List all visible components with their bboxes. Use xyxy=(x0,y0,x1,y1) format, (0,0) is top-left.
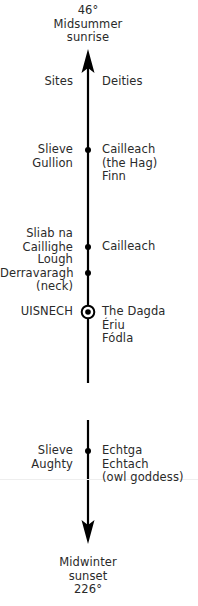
bottom-degree: 226° xyxy=(38,583,138,597)
top-event-2: sunrise xyxy=(38,31,138,45)
marker-dot-lough-derravaragh xyxy=(85,270,91,276)
marker-dot-sliab-na-caillighe xyxy=(85,244,91,250)
header-sites: Sites xyxy=(10,75,73,89)
bottom-event: Midwinter xyxy=(38,556,138,570)
site-slieve-aughty: Slieve Aughty xyxy=(0,444,73,471)
deities-slieve-aughty: Echtga Echtach (owl goddess) xyxy=(102,444,184,485)
site-lough-derravaragh: Lough Derravaragh (neck) xyxy=(0,253,73,294)
top-degree: 46° xyxy=(38,4,138,18)
deities-sliab-na-caillighe: Cailleach xyxy=(102,240,155,254)
bottom-label: Midwinter sunset 226° xyxy=(38,556,138,597)
top-event: Midsummer xyxy=(38,18,138,32)
site-slieve-gullion: Slieve Gullion xyxy=(0,143,73,170)
deities-slieve-gullion: Cailleach (the Hag) Finn xyxy=(102,143,157,184)
marker-dot-slieve-aughty xyxy=(85,448,91,454)
top-label: 46° Midsummer sunrise xyxy=(38,4,138,45)
deities-uisnech: The Dagda Ériu Fódla xyxy=(102,305,166,346)
alignment-axis xyxy=(0,0,198,606)
marker-dot-slieve-gullion xyxy=(85,147,91,153)
bottom-event-2: sunset xyxy=(38,570,138,584)
site-uisnech: UISNECH xyxy=(0,305,73,319)
header-deities: Deities xyxy=(102,75,143,89)
site-sliab-na-caillighe: Sliab na Caillighe xyxy=(0,227,73,254)
